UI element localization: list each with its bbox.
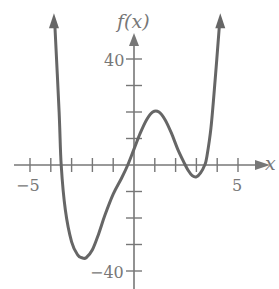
x-axis-label: x — [265, 152, 276, 174]
x-tick-label-neg5: −5 — [16, 176, 40, 195]
y-axis-label: f(x) — [115, 10, 150, 32]
chart-container: f(x) x −5 5 40 −40 — [0, 0, 279, 289]
y-tick-label-neg40: −40 — [90, 263, 124, 282]
function-curve — [55, 27, 219, 258]
y-axis-arrow-icon — [129, 33, 139, 46]
x-tick-label-5: 5 — [232, 176, 242, 195]
curve-left-arrow-icon — [49, 13, 59, 28]
axes — [14, 33, 270, 289]
y-tick-label-40: 40 — [104, 51, 124, 70]
curve-right-arrow-icon — [215, 13, 225, 28]
function-graph: f(x) x −5 5 40 −40 — [0, 0, 279, 289]
